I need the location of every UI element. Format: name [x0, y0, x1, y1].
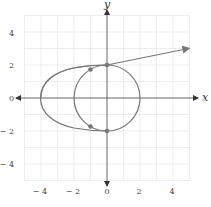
parabola-upper	[41, 49, 189, 99]
point-0-neg2	[105, 129, 110, 134]
graph: − 4 − 2 0 2 4 4 2 0 − 2 − 4 x y	[0, 0, 211, 207]
point-0-2	[105, 63, 110, 68]
y-axis-label: y	[103, 0, 111, 11]
x-tick: 2	[136, 187, 141, 196]
x-tick: 0	[104, 187, 109, 196]
y-tick: 4	[9, 29, 14, 38]
y-tick: − 4	[0, 160, 14, 169]
point-neg1-1.73	[88, 67, 93, 72]
y-tick: 0	[9, 94, 14, 103]
axes	[16, 10, 198, 186]
x-tick-labels: − 4 − 2 0 2 4	[33, 187, 175, 196]
x-tick: − 2	[66, 187, 80, 196]
x-tick: 4	[169, 187, 174, 196]
y-tick: 2	[9, 61, 14, 70]
x-axis-label: x	[202, 91, 209, 104]
y-tick-labels: 4 2 0 − 2 − 4	[0, 29, 14, 169]
x-tick: − 4	[33, 187, 47, 196]
point-neg1-neg1.73	[88, 124, 93, 129]
y-tick: − 2	[0, 127, 14, 136]
